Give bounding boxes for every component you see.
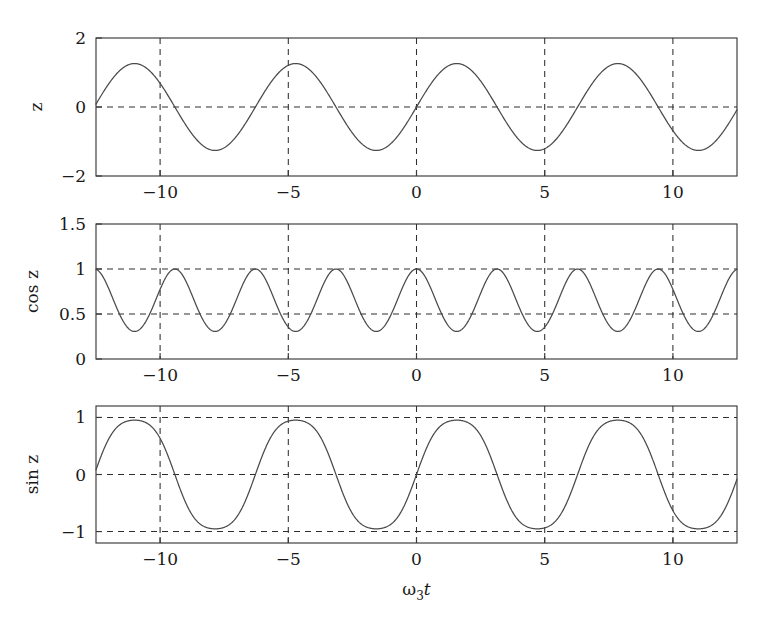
yticklabel-1: 1: [75, 407, 86, 427]
panel-2-sin-z: −10−50510−101sin z: [22, 406, 737, 569]
xticklabel-10: 10: [662, 182, 684, 202]
series-line-cos-z: [96, 269, 737, 331]
ylabel-panel-0: z: [26, 102, 46, 111]
yticklabel-0: 0: [75, 349, 86, 369]
xticklabel--5: −5: [276, 549, 301, 569]
xticklabel-0: 0: [411, 365, 422, 385]
yticklabel--1: −1: [61, 522, 86, 542]
xticklabel-0: 0: [411, 182, 422, 202]
yticklabel--2: −2: [61, 166, 86, 186]
figure-container: −10−50510−202z−10−5051000.511.5cos z−10−…: [0, 0, 776, 630]
panel-1-cos-z: −10−5051000.511.5cos z: [22, 214, 737, 385]
xticklabel--10: −10: [142, 182, 178, 202]
xticklabel--5: −5: [276, 182, 301, 202]
yticklabel-1.5: 1.5: [59, 214, 86, 234]
panel-0-z: −10−50510−202z: [26, 28, 737, 202]
xticklabel-5: 5: [539, 182, 550, 202]
yticklabel-1: 1: [75, 259, 86, 279]
xticklabel--10: −10: [142, 549, 178, 569]
xlabel-omega3t: ω3t: [402, 579, 431, 603]
ylabel-panel-1: cos z: [22, 270, 42, 313]
yticklabel-2: 2: [75, 28, 86, 48]
xticklabel-5: 5: [539, 365, 550, 385]
xticklabel-10: 10: [662, 549, 684, 569]
xticklabel-5: 5: [539, 549, 550, 569]
yticklabel-0: 0: [75, 97, 86, 117]
xticklabel--5: −5: [276, 365, 301, 385]
xticklabel-0: 0: [411, 549, 422, 569]
xticklabel--10: −10: [142, 365, 178, 385]
multi-panel-line-chart: −10−50510−202z−10−5051000.511.5cos z−10−…: [0, 0, 776, 630]
xticklabel-10: 10: [662, 365, 684, 385]
yticklabel-0.5: 0.5: [59, 304, 86, 324]
yticklabel-0: 0: [75, 465, 86, 485]
ylabel-panel-2: sin z: [22, 455, 42, 495]
